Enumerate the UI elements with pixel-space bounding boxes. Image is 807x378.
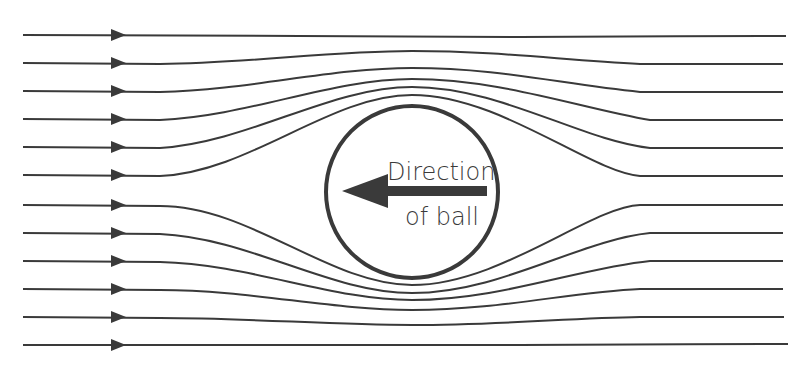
- flow-arrow-icon: [111, 113, 126, 125]
- flow-arrow-icon: [111, 227, 126, 239]
- flow-arrow-icon: [111, 339, 126, 351]
- flow-arrow-icon: [111, 141, 126, 153]
- direction-label-line2: of ball: [405, 203, 479, 231]
- streamline-arrowheads: [111, 29, 126, 351]
- direction-label-line1: Direction: [387, 158, 495, 186]
- streamline-11: [23, 317, 784, 325]
- flow-arrow-icon: [111, 57, 126, 69]
- flow-arrow-icon: [111, 29, 126, 41]
- ball: Direction of ball: [326, 106, 498, 278]
- streamline-1: [23, 35, 786, 37]
- streamline-2: [23, 51, 783, 64]
- flow-arrow-icon: [111, 255, 126, 267]
- flow-arrow-icon: [111, 311, 126, 323]
- streamline-12: [23, 344, 788, 345]
- flow-arrow-icon: [111, 199, 126, 211]
- flow-arrow-icon: [111, 85, 126, 97]
- direction-arrow-shaft: [385, 186, 487, 196]
- flow-arrow-icon: [111, 169, 126, 181]
- flow-diagram: Direction of ball: [0, 0, 807, 378]
- flow-arrow-icon: [111, 283, 126, 295]
